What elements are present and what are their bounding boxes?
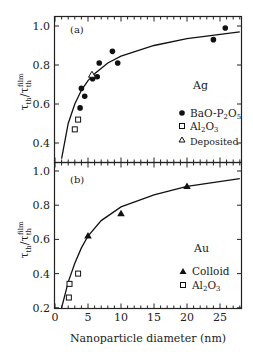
y-axis-label-b: τth/τthfilm xyxy=(17,221,33,258)
x-axis-label: Nanoparticle diameter (nm) xyxy=(70,332,226,345)
open-square-icon xyxy=(180,124,185,129)
panel-a-label: (a) xyxy=(70,24,84,35)
legend-b: Colloid Al2O3 xyxy=(180,265,230,293)
legend-b-al2o3: Al2O3 xyxy=(191,279,221,293)
figure: 0.40.60.81.00.20.40.60.81.00510152025 (a… xyxy=(0,0,253,352)
filled-circle-icon xyxy=(179,110,185,116)
legend-a-al2o3: Al2O3 xyxy=(189,120,219,134)
svg-text:0.8: 0.8 xyxy=(33,199,51,212)
material-b-label: Au xyxy=(193,242,209,255)
svg-text:15: 15 xyxy=(147,311,161,324)
filled-triangle-icon xyxy=(180,268,187,274)
svg-text:1.0: 1.0 xyxy=(33,165,51,178)
svg-text:0.6: 0.6 xyxy=(33,98,51,111)
svg-text:1.0: 1.0 xyxy=(33,20,51,33)
y-axis-label-a: τth/τthfilm xyxy=(17,73,33,110)
svg-text:0.4: 0.4 xyxy=(33,268,51,281)
svg-text:20: 20 xyxy=(180,311,194,324)
svg-text:0.8: 0.8 xyxy=(33,59,51,72)
legend-b-colloid: Colloid xyxy=(192,265,230,277)
svg-text:0.2: 0.2 xyxy=(33,302,51,315)
material-a-label: Ag xyxy=(192,79,208,92)
svg-text:25: 25 xyxy=(213,311,227,324)
legend-a-deposited: Deposited xyxy=(190,136,238,147)
svg-text:0: 0 xyxy=(52,311,59,324)
panel-b-label: (b) xyxy=(70,174,84,185)
open-square-icon xyxy=(181,283,186,288)
svg-text:0.6: 0.6 xyxy=(33,233,51,246)
svg-text:10: 10 xyxy=(114,311,128,324)
legend-a-bao: BaO-P2O5 xyxy=(190,107,241,121)
legend-a: BaO-P2O5 Al2O3 Deposited xyxy=(179,107,241,147)
open-triangle-icon xyxy=(179,137,185,142)
svg-text:0.4: 0.4 xyxy=(33,137,51,150)
svg-text:5: 5 xyxy=(85,311,92,324)
